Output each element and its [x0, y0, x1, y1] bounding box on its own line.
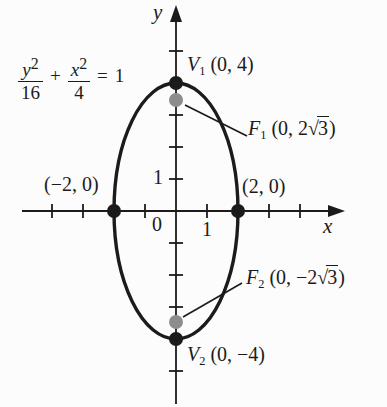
x-intercept-right-dot: [231, 204, 245, 218]
equation-denominator-4: 4: [71, 83, 87, 102]
f2-coords-pre: (0, −2√: [264, 266, 328, 288]
f2-letter: F: [246, 266, 258, 288]
f1-letter: F: [248, 117, 260, 139]
focus-f1-label: F1 (0, 2√3): [248, 118, 336, 139]
vertex-v1-dot: [169, 76, 183, 90]
focus-f1-dot: [169, 93, 183, 107]
equation-rhs: 1: [115, 65, 125, 93]
equation-denominator-16: 16: [18, 83, 43, 102]
v2-coords: (0, −4): [205, 343, 265, 365]
y-axis-arrow-icon: [170, 5, 182, 22]
equation-x-exponent: 2: [79, 55, 87, 72]
focus-f2-dot: [169, 315, 183, 329]
ellipse-equation: y2 16 + x2 4 = 1: [18, 56, 124, 102]
equals-sign: =: [97, 65, 108, 93]
f1-leader-line: [185, 105, 247, 136]
vertex-v2-dot: [169, 332, 183, 346]
y-axis-label: y: [153, 1, 162, 23]
ellipse-figure: y2 16 + x2 4 = 1 y x 1 0 1 V1 (0, 4) F1 …: [0, 0, 387, 407]
origin-label: 0: [152, 214, 162, 235]
vertex-v2-label: V2 (0, −4): [187, 344, 265, 365]
fraction-x-squared-over-4: x2 4: [68, 56, 90, 102]
f2-radicand: 3: [326, 265, 338, 288]
v1-coords: (0, 4): [205, 53, 253, 75]
fraction-y-squared-over-16: y2 16: [18, 56, 43, 102]
vertex-v1-label: V1 (0, 4): [187, 54, 254, 75]
x-intercept-left-label: (−2, 0): [44, 174, 99, 195]
x-intercept-left-dot: [107, 204, 121, 218]
v2-letter: V: [187, 343, 199, 365]
x-unit-label: 1: [202, 219, 212, 240]
v1-letter: V: [187, 53, 199, 75]
equation-y-exponent: 2: [31, 55, 39, 72]
equation-y: y: [22, 59, 30, 80]
x-axis-label: x: [323, 215, 332, 237]
x-intercept-right-label: (2, 0): [242, 176, 285, 197]
y-unit-label: 1: [153, 167, 163, 188]
focus-f2-label: F2 (0, −2√3): [246, 267, 345, 288]
f2-coords-post: ): [338, 266, 345, 288]
equation-x: x: [71, 59, 79, 80]
plus-sign: +: [50, 65, 61, 93]
f1-coords-pre: (0, 2√: [266, 117, 319, 139]
f1-coords-post: ): [329, 117, 336, 139]
f1-radicand: 3: [317, 116, 329, 139]
